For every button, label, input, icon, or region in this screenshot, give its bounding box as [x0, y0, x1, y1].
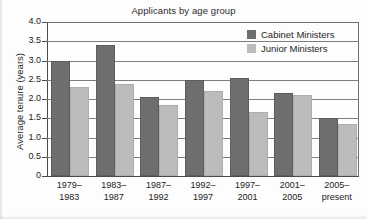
bar-group: [96, 22, 134, 176]
bar-group: [51, 22, 89, 176]
legend-entry[interactable]: Junior Ministers: [247, 42, 359, 55]
y-axis-tick-label: 2.0: [1, 93, 41, 103]
bar-cabinet-ministers[interactable]: [319, 118, 338, 176]
bar-junior-ministers[interactable]: [70, 87, 89, 176]
y-axis-tick-mark: [42, 138, 47, 139]
y-axis-tick-mark: [42, 61, 47, 62]
legend-swatch-icon: [247, 44, 256, 53]
chart-legend: Cabinet MinistersJunior Ministers: [247, 28, 359, 56]
gridline: [47, 176, 359, 177]
bar-junior-ministers[interactable]: [204, 91, 223, 176]
bar-cabinet-ministers[interactable]: [230, 78, 249, 176]
bar-junior-ministers[interactable]: [159, 105, 178, 176]
bar-cabinet-ministers[interactable]: [140, 97, 159, 176]
y-axis-tick-label: 0.5: [1, 151, 41, 161]
y-axis-tick-mark: [42, 22, 47, 23]
y-axis-tick-label: 4.0: [1, 16, 41, 26]
chart-title: Applicants by age group: [0, 5, 367, 16]
y-axis-tick-label: 1.5: [1, 112, 41, 122]
scan-edge-shadow-bottom: [0, 215, 367, 219]
y-axis-tick-labels: 00.51.01.52.02.53.03.54.0: [0, 0, 41, 219]
bar-cabinet-ministers[interactable]: [274, 93, 293, 176]
y-axis-tick-mark: [42, 118, 47, 119]
x-axis-tick-label-line: present: [311, 192, 363, 204]
bar-cabinet-ministers[interactable]: [51, 61, 70, 177]
bar-cabinet-ministers[interactable]: [96, 45, 115, 176]
legend-entry[interactable]: Cabinet Ministers: [247, 28, 359, 41]
y-axis-tick-label: 1.0: [1, 132, 41, 142]
y-axis-tick-label: 0: [1, 170, 41, 180]
bar-group: [140, 22, 178, 176]
y-axis-tick-label: 3.5: [1, 35, 41, 45]
y-axis-tick-label: 2.5: [1, 74, 41, 84]
bar-junior-ministers[interactable]: [115, 84, 134, 176]
legend-label: Cabinet Ministers: [261, 29, 334, 40]
legend-label: Junior Ministers: [261, 43, 328, 54]
legend-swatch-icon: [247, 30, 256, 39]
x-axis-tick-label-line: 2005–: [311, 180, 363, 192]
bar-group: [185, 22, 223, 176]
y-axis-tick-mark: [42, 80, 47, 81]
chart-figure: Applicants by age group Average tenure (…: [0, 0, 367, 219]
x-axis-tick-labels: 1979–19831983–19871987–19921992–19971997…: [47, 180, 359, 219]
y-axis-tick-mark: [42, 157, 47, 158]
bar-junior-ministers[interactable]: [338, 124, 357, 176]
bar-junior-ministers[interactable]: [293, 95, 312, 176]
x-axis-tick-label: 2005–present: [311, 180, 363, 203]
y-axis-tick-label: 3.0: [1, 55, 41, 65]
y-axis-tick-mark: [42, 41, 47, 42]
bar-junior-ministers[interactable]: [249, 112, 268, 176]
scan-edge-shadow-left: [0, 0, 3, 219]
bar-cabinet-ministers[interactable]: [185, 80, 204, 176]
y-axis-tick-mark: [42, 99, 47, 100]
y-axis-tick-mark: [42, 176, 47, 177]
